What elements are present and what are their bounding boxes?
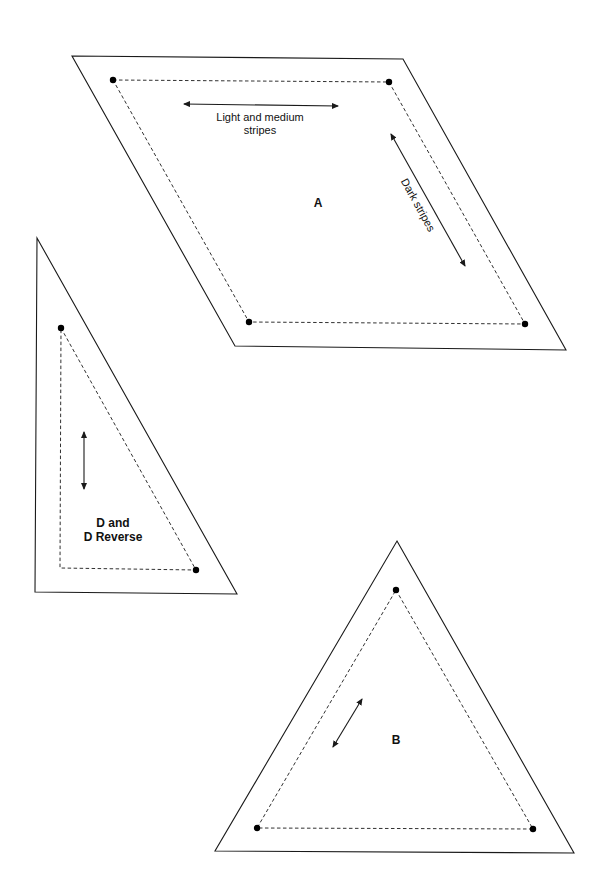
piece-d-label-line-1: D and	[84, 517, 143, 531]
piece-a-corner-dot	[522, 321, 528, 327]
piece-b-label: B	[392, 734, 401, 748]
piece-d-corner-dot	[193, 567, 199, 573]
piece-d-corner-dot	[58, 325, 64, 331]
piece-a-corner-dot	[110, 77, 116, 83]
grain-arrow-light-medium-icon	[184, 104, 338, 106]
piece-a-corner-dot	[246, 319, 252, 325]
piece-b-corner-dot	[254, 825, 260, 831]
grain-arrow-b-icon	[333, 699, 362, 747]
piece-b-corner-dot	[530, 826, 536, 832]
grain-note-line-2: stripes	[216, 124, 303, 137]
piece-a-label: A	[314, 197, 323, 211]
piece-d-label-line-2: D Reverse	[84, 531, 143, 545]
grain-arrow-dark-icon	[391, 134, 465, 266]
grain-note-line-1: Light and medium	[216, 111, 303, 124]
piece-d-label: D and D Reverse	[84, 517, 143, 545]
piece-a-grain-note-light-medium: Light and medium stripes	[216, 111, 303, 136]
piece-a-corner-dot	[386, 79, 392, 85]
piece-b-corner-dot	[393, 587, 399, 593]
piece-b	[215, 541, 574, 853]
